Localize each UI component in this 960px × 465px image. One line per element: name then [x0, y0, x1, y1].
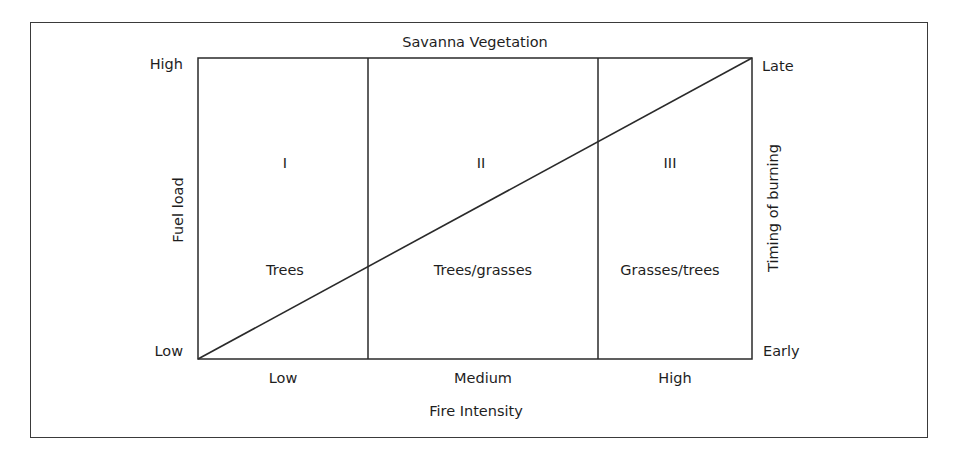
zone-2-numeral: II — [477, 155, 486, 171]
y-left-high-label: High — [150, 56, 183, 72]
y-right-early-label: Early — [763, 343, 800, 359]
diagram-title: Savanna Vegetation — [402, 34, 548, 50]
zone-1-numeral: I — [283, 155, 287, 171]
y-right-axis-label: Timing of burning — [765, 144, 781, 272]
x-medium-label: Medium — [454, 370, 512, 386]
x-axis-label: Fire Intensity — [429, 403, 523, 419]
y-right-late-label: Late — [762, 58, 794, 74]
y-left-axis-label: Fuel load — [170, 177, 186, 242]
x-high-label: High — [658, 370, 691, 386]
zone-2-vegetation: Trees/grasses — [434, 262, 532, 278]
zone-3-vegetation: Grasses/trees — [620, 262, 719, 278]
zone-3-numeral: III — [664, 155, 677, 171]
diagonal-trend-line — [198, 58, 752, 359]
zone-1-vegetation: Trees — [266, 262, 304, 278]
y-left-low-label: Low — [154, 343, 183, 359]
diagram-plot — [0, 0, 960, 465]
x-low-label: Low — [269, 370, 298, 386]
